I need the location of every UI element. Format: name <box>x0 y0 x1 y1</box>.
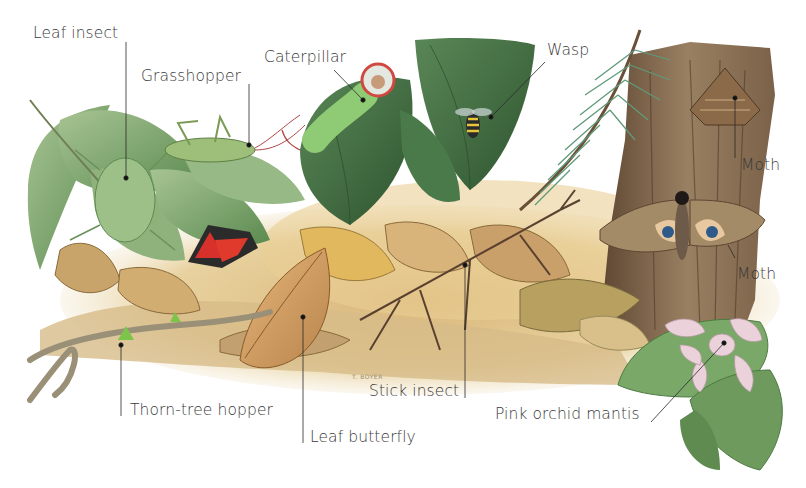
label-stick-insect: Stick insect <box>369 382 459 400</box>
insect-camouflage-illustration <box>0 0 806 488</box>
grasshopper <box>165 115 305 162</box>
label-moth-lower: Moth <box>737 265 776 283</box>
label-pink-orchid-mantis: Pink orchid mantis <box>495 405 640 423</box>
label-leaf-insect: Leaf insect <box>33 24 118 42</box>
label-moth-upper: Moth <box>741 156 780 174</box>
label-leaf-butterfly: Leaf butterfly <box>310 428 416 446</box>
label-thorn-tree-hopper: Thorn-tree hopper <box>130 401 273 419</box>
label-grasshopper: Grasshopper <box>141 67 241 85</box>
artist-signature: T. BOYER <box>352 373 383 380</box>
label-caterpillar: Caterpillar <box>264 48 346 66</box>
label-wasp: Wasp <box>547 41 589 59</box>
